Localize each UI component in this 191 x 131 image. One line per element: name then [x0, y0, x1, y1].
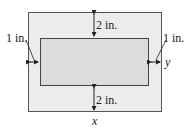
right-margin-label: 1 in.	[163, 32, 184, 44]
left-margin-label: 1 in.	[6, 32, 27, 44]
height-variable-label: y	[165, 56, 170, 68]
poster-margin-diagram: 2 in. 2 in. 1 in. 1 in. y x	[0, 0, 191, 131]
width-variable-label: x	[92, 115, 97, 127]
top-margin-label: 2 in.	[96, 19, 117, 31]
bottom-margin-label: 2 in.	[96, 94, 117, 106]
